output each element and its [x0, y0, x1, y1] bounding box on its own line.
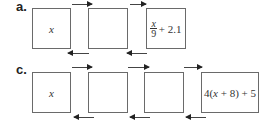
part-a-box-2 — [88, 8, 128, 49]
forward-arrow-icon — [72, 67, 92, 68]
part-a-box-3: x 9 + 2.1 — [146, 8, 186, 49]
part-c-box-3 — [144, 72, 184, 113]
backward-arrow-icon — [130, 117, 150, 118]
forward-arrow-icon — [128, 67, 149, 68]
backward-arrow-icon — [186, 117, 206, 118]
part-c-box-1: x — [32, 72, 71, 113]
box-expression: x — [49, 87, 54, 99]
box-expression: + 2.1 — [159, 23, 182, 35]
backward-arrow-icon — [68, 53, 89, 54]
fraction: x 9 — [150, 19, 156, 38]
box-expression: x — [49, 23, 54, 35]
part-c-box-2 — [88, 72, 128, 113]
backward-arrow-icon — [127, 53, 147, 54]
forward-arrow-icon — [130, 4, 146, 5]
part-a-box-1: x — [32, 8, 71, 49]
part-a-label: a. — [16, 0, 27, 14]
part-c-box-4: 4(x + 8) + 5 — [201, 72, 259, 113]
forward-arrow-icon — [72, 4, 92, 5]
backward-arrow-icon — [74, 117, 94, 118]
forward-arrow-icon — [184, 67, 202, 68]
part-c-label: c. — [16, 62, 27, 77]
